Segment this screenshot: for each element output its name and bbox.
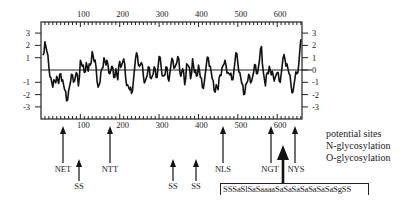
site-label-nys: NYS [287, 164, 304, 174]
y-tick-label-right: -1 [312, 77, 319, 87]
arrow-ss-2 [170, 159, 176, 181]
y-tick-label-right: 3 [312, 28, 316, 38]
y-tick-label-right: 1 [312, 53, 316, 63]
site-label-net: NET [55, 164, 72, 174]
x-tick-label-bottom: 300 [156, 120, 169, 130]
x-tick-label-top: 400 [195, 9, 208, 19]
site-label-ss-3: SS [191, 181, 201, 191]
site-label-ss-2: SS [168, 181, 178, 191]
arrow-ntt [107, 126, 113, 163]
arrow-ss-3 [193, 159, 199, 181]
y-tick-label-left: -3 [23, 102, 30, 112]
x-tick-label-bottom: 600 [274, 120, 287, 130]
x-tick-label-top: 200 [116, 9, 129, 19]
legend-n-glycosylation: N-glycosylation [326, 140, 390, 151]
y-tick-label-left: -2 [23, 90, 30, 100]
x-tick-label-top: 500 [234, 9, 247, 19]
arrow-nls [220, 126, 226, 163]
site-label-ss-1: SS [74, 181, 84, 191]
arrow-net [60, 126, 66, 163]
y-tick-label-right: 0 [312, 65, 316, 75]
x-tick-label-top: 100 [77, 9, 90, 19]
site-arrows [60, 126, 298, 183]
x-tick-label-bottom: 100 [77, 120, 90, 130]
site-label-ngt: NGT [261, 164, 279, 174]
y-tick-label-right: 2 [312, 40, 316, 50]
x-tick-label-top: 600 [274, 9, 287, 19]
x-tick-label-bottom: 500 [234, 120, 247, 130]
x-tick-label-top: 300 [156, 9, 169, 19]
site-label-ntt: NTT [102, 164, 119, 174]
o-glycosylation-sequence: SSSaSlSaSaaaaSaSaSaSaSaSaSaSgSS [223, 184, 351, 194]
hydropathy-plot: 100200300400500600100200300400500600 321… [0, 0, 416, 202]
x-tick-label-bottom: 400 [195, 120, 208, 130]
arrow-ss-1 [76, 159, 82, 181]
arrow-nys [292, 126, 298, 163]
arrow-ngt [268, 126, 274, 163]
site-label-nls: NLS [215, 164, 231, 174]
y-tick-label-left: 1 [26, 53, 30, 63]
y-tick-label-right: -2 [312, 90, 319, 100]
x-tick-label-bottom: 200 [116, 120, 129, 130]
y-tick-label-right: -3 [312, 102, 319, 112]
legend-o-glycosylation: O-glycosylation [326, 152, 390, 163]
y-tick-label-left: -1 [23, 77, 30, 87]
y-tick-label-left: 3 [26, 28, 30, 38]
legend-title: potential sites [326, 128, 381, 139]
y-tick-label-left: 2 [26, 40, 30, 50]
